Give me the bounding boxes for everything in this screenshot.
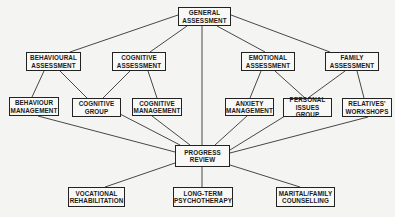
connector-line [230, 165, 300, 187]
node-beh-mgmt: BEHAVIOUR MANAGEMENT [9, 97, 59, 116]
connector-line [215, 116, 247, 145]
connector-line [308, 71, 345, 98]
node-marital: MARITAL/FAMILY COUNSELLING [276, 187, 335, 207]
node-cog-mgmt: COGNITIVE MANAGEMENT [132, 98, 182, 116]
node-progress: PROGRESS REVIEW [175, 145, 230, 167]
node-beh-assess: BEHAVIOURAL ASSESSMENT [26, 52, 81, 71]
connector-line [60, 71, 87, 98]
connector-line [231, 15, 330, 52]
connector-line [230, 117, 368, 153]
connector-lines [0, 0, 395, 217]
connector-line [38, 116, 175, 152]
connector-line [250, 71, 261, 98]
node-fam-assess: FAMILY ASSESSMENT [325, 52, 379, 71]
node-emo-assess: EMOTIONAL ASSESSMENT [241, 52, 295, 71]
connector-line [103, 71, 130, 98]
connector-line [148, 71, 157, 98]
connector-line [70, 15, 178, 52]
node-cog-group: COGNITIVE GROUP [72, 98, 121, 117]
node-anx-mgmt: ANXIETY MANAGEMENT [225, 98, 274, 116]
treatment-flow-diagram: GENERAL ASSESSMENTBEHAVIOURAL ASSESSMENT… [0, 0, 395, 217]
connector-line [357, 71, 364, 98]
node-vocational: VOCATIONAL REHABILITATION [68, 187, 125, 207]
node-general: GENERAL ASSESSMENT [178, 7, 231, 26]
node-longterm: LONG-TERM PSYCHOTHERAPY [173, 187, 233, 207]
node-cog-assess: COGNITIVE ASSESSMENT [112, 52, 166, 71]
node-personal: PERSONAL ISSUES GROUP [283, 98, 332, 117]
node-relatives: RELATIVES' WORKSHOPS [342, 98, 392, 117]
connector-line [275, 71, 305, 98]
connector-line [32, 71, 44, 97]
connector-line [105, 163, 175, 187]
connector-line [150, 26, 187, 52]
connector-line [217, 26, 265, 52]
connector-line [230, 116, 285, 150]
